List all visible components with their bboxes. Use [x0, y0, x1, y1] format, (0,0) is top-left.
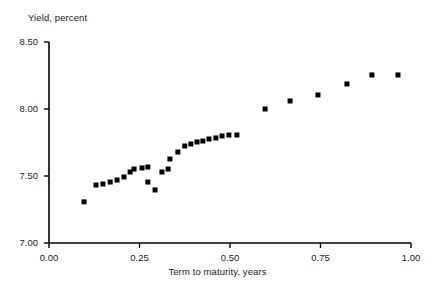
data-point: [140, 165, 145, 170]
data-point: [132, 167, 137, 172]
data-point: [369, 72, 374, 77]
data-point: [115, 178, 120, 183]
data-point: [288, 98, 293, 103]
data-point: [226, 133, 231, 138]
y-tick-label: 8.50: [4, 36, 38, 47]
data-point: [94, 182, 99, 187]
data-point: [315, 92, 320, 97]
data-point: [121, 174, 126, 179]
x-tick-label: 0.00: [29, 252, 69, 263]
data-point: [145, 165, 150, 170]
x-tick-label: 0.50: [210, 252, 250, 263]
data-point: [100, 182, 105, 187]
data-point: [188, 141, 193, 146]
x-tick-label: 0.75: [301, 252, 341, 263]
data-point: [200, 139, 205, 144]
data-point: [263, 107, 268, 112]
data-point: [167, 156, 172, 161]
data-point: [166, 167, 171, 172]
data-point: [182, 143, 187, 148]
data-point: [234, 133, 239, 138]
data-point-markers: [82, 72, 401, 204]
y-tick-label: 8.00: [4, 103, 38, 114]
plot-area: [0, 0, 435, 292]
data-point: [153, 187, 158, 192]
y-tick-label: 7.00: [4, 237, 38, 248]
data-point: [159, 169, 164, 174]
data-point: [82, 199, 87, 204]
data-point: [108, 180, 113, 185]
data-point: [344, 81, 349, 86]
data-point: [175, 150, 180, 155]
data-point: [145, 180, 150, 185]
data-point: [207, 137, 212, 142]
data-point: [220, 133, 225, 138]
x-axis-title: Term to maturity, years: [0, 266, 435, 277]
x-tick-label: 1.00: [391, 252, 431, 263]
y-tick-label: 7.50: [4, 170, 38, 181]
data-point: [195, 139, 200, 144]
data-point: [395, 72, 400, 77]
data-point: [213, 135, 218, 140]
axis-lines: [49, 42, 411, 243]
yield-curve-scatter-chart: Yield, percent 7.007.508.008.50 0.000.25…: [0, 0, 435, 292]
x-tick-label: 0.25: [120, 252, 160, 263]
